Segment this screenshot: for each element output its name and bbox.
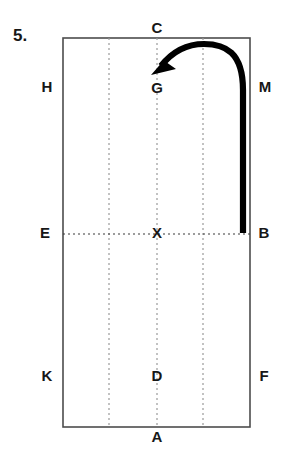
figure-number-label: 5.: [13, 26, 27, 45]
point-label-d: D: [152, 367, 163, 384]
point-label-g: G: [151, 79, 163, 96]
point-label-x: X: [152, 224, 162, 241]
point-label-c: C: [152, 19, 163, 36]
point-label-h: H: [42, 78, 53, 95]
point-label-m: M: [259, 78, 272, 95]
point-label-e: E: [40, 224, 50, 241]
point-label-a: A: [152, 428, 163, 445]
point-label-b: B: [259, 224, 270, 241]
figure-canvas: 5. C H M G E X B K D F A: [0, 0, 284, 465]
point-label-k: K: [42, 367, 53, 384]
point-label-f: F: [259, 367, 268, 384]
paper-folding-figure: 5. C H M G E X B K D F A: [0, 0, 284, 465]
